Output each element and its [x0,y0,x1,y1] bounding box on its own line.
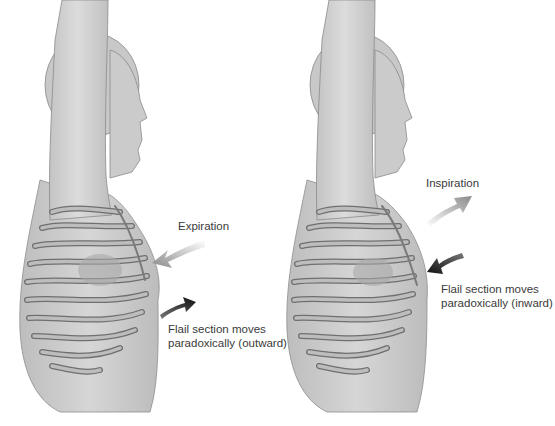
raised-arm [316,0,379,220]
flail-outward-arrow [160,297,196,319]
flail-outward-label-line1: Flail section moves [168,323,266,336]
flail-inward-label-line2: paradoxically (inward) [441,297,553,310]
expiration-label: Expiration [178,220,229,233]
inspiration-panel: Inspiration Flail section moves paradoxi… [277,0,555,426]
flail-segment [353,258,393,286]
flail-outward-label-line2: paradoxically (outward) [168,337,287,350]
raised-arm [49,0,112,220]
torso-illustration-inspiration [277,0,555,426]
flail-inward-arrow [427,253,464,274]
torso-illustration-expiration [0,0,278,426]
flail-segment [78,254,122,286]
expiration-arrow [152,240,205,268]
expiration-panel: Expiration Flail section moves paradoxic… [0,0,278,426]
inspiration-arrow [427,196,472,227]
inspiration-label: Inspiration [426,177,479,190]
flail-inward-label-line1: Flail section moves [441,283,539,296]
